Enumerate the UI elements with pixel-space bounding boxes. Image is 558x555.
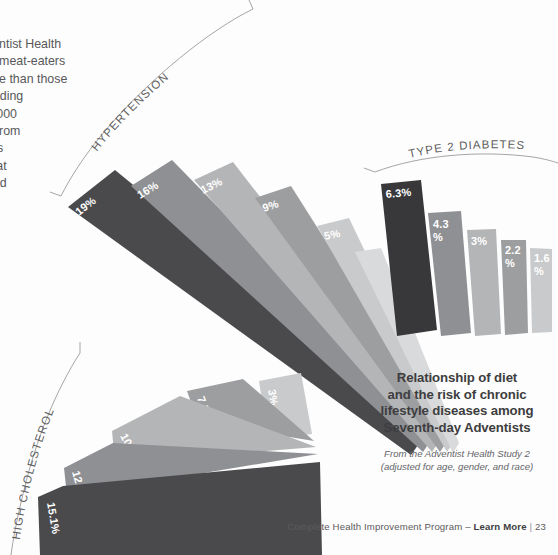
caption-heading-line-4: Seventh-day Adventists bbox=[384, 420, 531, 435]
intro-line-4: anding bbox=[0, 88, 90, 105]
caption-heading-line-1: Relationship of diet bbox=[397, 370, 517, 385]
footer-learn-more-link[interactable]: Learn More bbox=[473, 521, 526, 532]
arc-label-type2-diabetes: TYPE 2 DIABETES bbox=[407, 138, 525, 159]
bar-diabetes-4[interactable]: 2.2 % bbox=[501, 240, 528, 335]
bar-label-diabetes-5: 1.6 bbox=[534, 252, 550, 264]
bar-diabetes-5[interactable]: 1.6 % bbox=[530, 248, 552, 333]
intro-line-3: ase than those bbox=[0, 71, 90, 88]
intro-line-2: st meat-eaters bbox=[0, 53, 90, 70]
intro-line-9: had bbox=[0, 175, 90, 192]
intro-line-8: that bbox=[0, 158, 90, 175]
arc-type2-diabetes: TYPE 2 DIABETES bbox=[364, 138, 558, 172]
footer-page-number: 23 bbox=[535, 521, 546, 532]
intro-line-6: s from bbox=[0, 123, 90, 140]
caption-source-line-1: From the Adventist Health Study 2 bbox=[384, 448, 530, 459]
bar-label-diabetes-5-pct: % bbox=[534, 265, 544, 277]
footer-dash: – bbox=[465, 521, 471, 532]
bar-label-diabetes-2-pct: % bbox=[433, 231, 443, 243]
caption-heading-line-2: and the risk of chronic bbox=[387, 387, 526, 402]
bar-label-diabetes-3: 3% bbox=[471, 235, 487, 247]
chart-caption: Relationship of diet and the risk of chr… bbox=[366, 370, 548, 473]
bar-diabetes-3[interactable]: 3% bbox=[467, 229, 501, 336]
intro-line-5: 7,000 bbox=[0, 106, 90, 123]
caption-source: From the Adventist Health Study 2 (adjus… bbox=[366, 447, 548, 473]
adventist-study-intro-paragraph: ventist Health st meat-eaters ase than t… bbox=[0, 36, 90, 193]
bar-label-diabetes-1: 6.3% bbox=[385, 186, 412, 200]
footer-separator: | bbox=[530, 521, 533, 532]
bar-label-diabetes-4: 2.2 bbox=[505, 244, 521, 256]
bar-label-diabetes-2: 4.3 bbox=[433, 218, 449, 230]
bar-label-diabetes-4-pct: % bbox=[505, 257, 515, 269]
arc-label-hypertension: HYPERTENSION bbox=[89, 70, 171, 153]
caption-heading: Relationship of diet and the risk of chr… bbox=[366, 370, 548, 436]
page-footer: Complete Health Improvement Program – Le… bbox=[0, 521, 546, 532]
infographic-canvas: 19% 16% 13% 9% 5% bbox=[0, 0, 558, 555]
intro-line-1: ventist Health bbox=[0, 36, 90, 53]
caption-source-line-2: (adjusted for age, gender, and race) bbox=[381, 461, 534, 472]
footer-program-name: Complete Health Improvement Program bbox=[288, 521, 463, 532]
intro-line-7: ers bbox=[0, 140, 90, 157]
caption-heading-line-3: lifestyle diseases among bbox=[381, 403, 534, 418]
group-type2-diabetes: 6.3% 4.3 % 3% 2.2 % 1.6 bbox=[381, 180, 552, 336]
